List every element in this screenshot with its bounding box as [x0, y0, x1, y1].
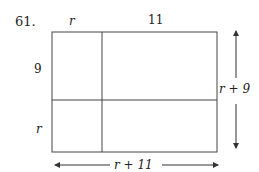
label-right: r + 9: [219, 83, 250, 95]
label-top-left: r: [69, 15, 75, 27]
label-left-top: 9: [34, 63, 42, 75]
label-top-right: 11: [148, 14, 163, 26]
problem-number: 61.: [15, 16, 36, 28]
label-bottom: r + 11: [114, 159, 153, 171]
outer-rectangle: [52, 32, 217, 152]
label-left-bottom: r: [36, 123, 42, 135]
